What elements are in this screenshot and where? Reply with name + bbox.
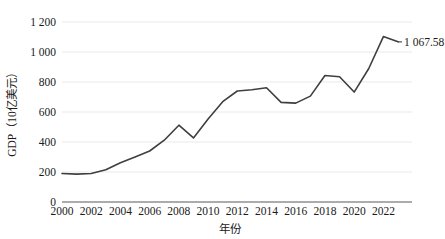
x-axis-tick-label: 2014 (255, 205, 278, 217)
gdp-series-line (62, 37, 398, 175)
y-axis-tick-label: 1 200 (30, 16, 56, 28)
gdp-line-chart: 02004006008001 0001 200 2000200220042006… (0, 0, 445, 239)
y-axis-tick-label: 600 (39, 106, 57, 118)
x-axis-tick-label: 2008 (167, 205, 190, 217)
x-axis-title: 年份 (219, 222, 242, 235)
y-axis-title: GDP（10亿美元） (5, 67, 18, 157)
y-axis-tick-label: 1 000 (30, 46, 56, 58)
x-axis-tick-label: 2004 (109, 205, 132, 217)
x-axis-tick-labels: 2000200220042006200820102012201420162018… (51, 205, 396, 217)
gridlines-group (62, 22, 412, 172)
chart-canvas: 02004006008001 0001 200 2000200220042006… (0, 0, 445, 239)
x-axis-tick-label: 2010 (197, 205, 220, 217)
y-axis-tick-label: 400 (39, 136, 57, 148)
x-axis-tick-label: 2000 (51, 205, 74, 217)
x-axis-tick-label: 2020 (343, 205, 366, 217)
x-axis-tick-label: 2018 (313, 205, 336, 217)
y-axis-tick-label: 800 (39, 76, 57, 88)
y-axis-tick-labels: 02004006008001 0001 200 (30, 16, 56, 208)
x-axis-tick-label: 2012 (226, 205, 249, 217)
last-point-data-label: 1 067.58 (404, 36, 445, 48)
x-axis-tick-label: 2006 (138, 205, 161, 217)
x-axis-tick-label: 2022 (372, 205, 395, 217)
y-axis-tick-label: 200 (39, 166, 57, 178)
x-axis-tick-label: 2002 (80, 205, 103, 217)
x-axis-tick-label: 2016 (284, 205, 307, 217)
